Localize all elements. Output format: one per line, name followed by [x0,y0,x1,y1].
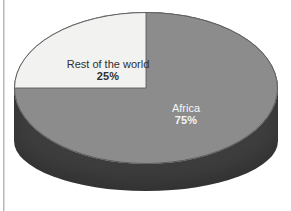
pie-chart-screenshot: Rest of the world 25% Africa 75% [0,0,291,211]
slice-label-africa-value: 75% [146,115,226,127]
slice-label-rest-of-the-world: Rest of the world 25% [48,59,168,83]
slice-label-africa: Africa 75% [146,103,226,127]
pie-top-surface [14,12,278,164]
frame-left-border-highlight [4,0,5,211]
pie-chart: Rest of the world 25% Africa 75% [14,12,278,192]
slice-label-rest-of-the-world-value: 25% [48,71,168,83]
